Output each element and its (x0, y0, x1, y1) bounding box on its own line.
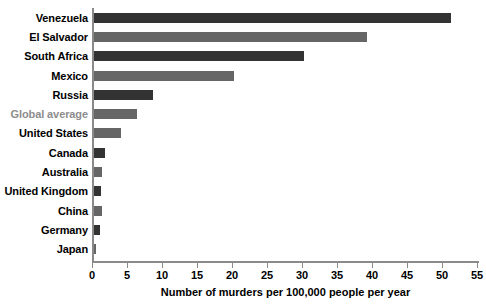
tick-label: 35 (331, 269, 343, 281)
tick-label: 15 (191, 269, 203, 281)
tick-mark (477, 263, 478, 268)
tick-label: 10 (156, 269, 168, 281)
tick-mark (372, 263, 373, 268)
x-axis-ticks: 0510152025303540455055 (0, 0, 486, 305)
tick-label: 55 (471, 269, 483, 281)
tick-label: 20 (226, 269, 238, 281)
tick-mark (197, 263, 198, 268)
tick-label: 45 (401, 269, 413, 281)
tick-mark (442, 263, 443, 268)
tick-mark (407, 263, 408, 268)
plot-area: VenezuelaEl SalvadorSouth AfricaMexicoRu… (0, 0, 486, 305)
tick-mark (92, 263, 93, 268)
tick-label: 5 (124, 269, 130, 281)
tick-mark (302, 263, 303, 268)
murder-rate-bar-chart: VenezuelaEl SalvadorSouth AfricaMexicoRu… (0, 0, 486, 305)
tick-label: 30 (296, 269, 308, 281)
tick-label: 25 (261, 269, 273, 281)
tick-mark (127, 263, 128, 268)
tick-label: 40 (366, 269, 378, 281)
tick-label: 0 (89, 269, 95, 281)
tick-mark (162, 263, 163, 268)
tick-mark (337, 263, 338, 268)
tick-label: 50 (436, 269, 448, 281)
tick-mark (232, 263, 233, 268)
tick-mark (267, 263, 268, 268)
x-axis-title: Number of murders per 100,000 people per… (92, 286, 479, 298)
